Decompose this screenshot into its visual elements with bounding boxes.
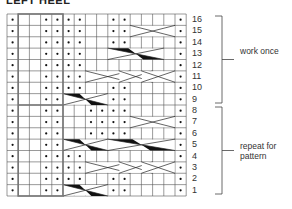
purl-dot-icon [112, 30, 114, 32]
purl-dot-icon [124, 98, 126, 100]
knitting-chart [0, 0, 292, 209]
row-number: 11 [192, 71, 201, 82]
purl-dot-icon [79, 41, 81, 43]
purl-dot-icon [112, 87, 114, 89]
bracket-label-work-once: work once [240, 46, 279, 56]
purl-dot-icon [90, 110, 92, 112]
purl-dot-icon [45, 144, 47, 146]
purl-dot-icon [12, 144, 14, 146]
purl-dot-icon [112, 132, 114, 134]
purl-dot-icon [180, 110, 182, 112]
row-number: 13 [192, 48, 202, 59]
purl-dot-icon [45, 132, 47, 134]
bracket-label-repeat: repeat for pattern [240, 141, 292, 161]
purl-dot-icon [180, 121, 182, 123]
purl-dot-icon [56, 155, 58, 157]
purl-dot-icon [79, 178, 81, 180]
purl-dot-icon [180, 166, 182, 168]
purl-dot-icon [90, 132, 92, 134]
purl-dot-icon [45, 98, 47, 100]
purl-dot-icon [68, 30, 70, 32]
purl-dot-icon [12, 110, 14, 112]
row-number: 4 [192, 151, 197, 162]
purl-dot-icon [45, 178, 47, 180]
purl-dot-icon [180, 132, 182, 134]
purl-dot-icon [180, 75, 182, 77]
bracket-label-repeat-text: repeat for pattern [240, 141, 276, 161]
purl-dot-icon [79, 30, 81, 32]
purl-dot-icon [68, 19, 70, 21]
purl-dot-icon [56, 110, 58, 112]
purl-dot-icon [180, 19, 182, 21]
row-number: 12 [192, 60, 202, 71]
purl-dot-icon [45, 64, 47, 66]
cable-symbol [130, 116, 175, 127]
purl-dot-icon [90, 121, 92, 123]
purl-dot-icon [180, 98, 182, 100]
row-number: 6 [192, 128, 197, 139]
row-number: 8 [192, 105, 197, 116]
purl-dot-icon [12, 53, 14, 55]
purl-dot-icon [180, 155, 182, 157]
purl-dot-icon [12, 19, 14, 21]
purl-dot-icon [56, 75, 58, 77]
purl-dot-icon [101, 110, 103, 112]
row-number: 14 [192, 37, 202, 48]
purl-dot-icon [79, 166, 81, 168]
purl-dot-icon [112, 189, 114, 191]
purl-dot-icon [12, 98, 14, 100]
purl-dot-icon [12, 121, 14, 123]
purl-dot-icon [12, 189, 14, 191]
purl-dot-icon [68, 178, 70, 180]
purl-dot-icon [68, 64, 70, 66]
purl-dot-icon [56, 189, 58, 191]
row-number: 9 [192, 94, 197, 105]
purl-dot-icon [56, 144, 58, 146]
cable-symbol [130, 25, 175, 36]
cable-symbol [63, 139, 108, 150]
purl-dot-icon [56, 121, 58, 123]
purl-dot-icon [101, 121, 103, 123]
purl-dot-icon [124, 121, 126, 123]
purl-dot-icon [68, 155, 70, 157]
purl-dot-icon [56, 19, 58, 21]
purl-dot-icon [124, 110, 126, 112]
purl-dot-icon [45, 189, 47, 191]
purl-dot-icon [45, 53, 47, 55]
purl-dot-icon [45, 110, 47, 112]
purl-dot-icon [124, 30, 126, 32]
purl-dot-icon [79, 155, 81, 157]
purl-dot-icon [56, 98, 58, 100]
purl-dot-icon [45, 75, 47, 77]
purl-dot-icon [112, 110, 114, 112]
row-number: 5 [192, 139, 197, 150]
purl-dot-icon [12, 41, 14, 43]
row-number: 1 [192, 185, 197, 196]
purl-dot-icon [56, 30, 58, 32]
purl-dot-icon [112, 98, 114, 100]
purl-dot-icon [68, 87, 70, 89]
purl-dot-icon [45, 30, 47, 32]
purl-dot-icon [56, 178, 58, 180]
cable-symbol [108, 139, 175, 150]
purl-dot-icon [12, 132, 14, 134]
purl-dot-icon [124, 189, 126, 191]
purl-dot-icon [101, 132, 103, 134]
purl-dot-icon [79, 53, 81, 55]
row-number: 10 [192, 82, 202, 93]
purl-dot-icon [180, 178, 182, 180]
purl-dot-icon [56, 64, 58, 66]
bracket-line [215, 107, 222, 194]
purl-dot-icon [56, 166, 58, 168]
purl-dot-icon [12, 166, 14, 168]
purl-dot-icon [79, 75, 81, 77]
purl-dot-icon [68, 75, 70, 77]
purl-dot-icon [112, 19, 114, 21]
purl-dot-icon [180, 144, 182, 146]
purl-dot-icon [180, 30, 182, 32]
purl-dot-icon [45, 166, 47, 168]
purl-dot-icon [12, 75, 14, 77]
purl-dot-icon [112, 178, 114, 180]
purl-dot-icon [45, 87, 47, 89]
purl-dot-icon [56, 132, 58, 134]
